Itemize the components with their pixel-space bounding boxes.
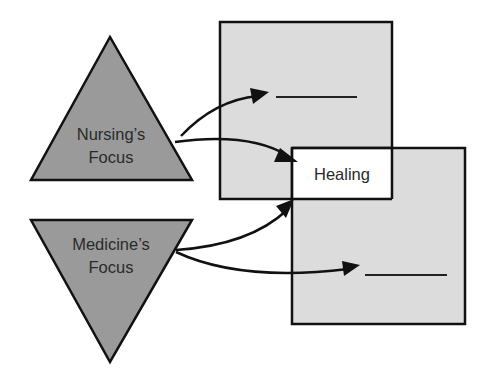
nursing-medicine-healing-diagram: Healing Nursing’s Focus Medicine’s Focus xyxy=(0,0,487,382)
nursing-focus-label-line2: Focus xyxy=(89,148,134,166)
nursing-focus-label-line1: Nursing’s xyxy=(77,125,145,143)
medicine-focus-label-line1: Medicine’s xyxy=(72,235,150,253)
medicine-focus-label-line2: Focus xyxy=(89,258,134,276)
arrow-medicine-to-healing xyxy=(176,210,287,250)
healing-label: Healing xyxy=(314,165,370,183)
